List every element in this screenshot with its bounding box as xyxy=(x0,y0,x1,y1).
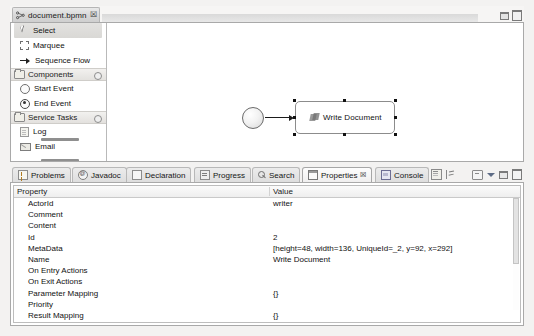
palette-tool-sequence-flow[interactable]: Sequence Flow xyxy=(11,53,106,68)
palette-entry-label: End Event xyxy=(34,99,71,108)
cell-property: Parameter Mapping xyxy=(14,289,270,298)
palette-entry-log[interactable]: Log xyxy=(11,124,106,139)
email-icon xyxy=(20,143,31,151)
chevron-down-icon[interactable] xyxy=(487,173,495,177)
table-row[interactable]: ActorId writer xyxy=(14,198,520,209)
table-header-row: Property Value xyxy=(14,186,520,198)
table-vertical-scrollbar-thumb[interactable] xyxy=(513,198,519,264)
bpmn-diagram-canvas[interactable]: Write Document xyxy=(107,23,523,161)
properties-table[interactable]: Property Value ActorId writer Comment Co… xyxy=(13,185,521,323)
end-event-icon xyxy=(20,99,30,109)
palette-scroll-indicator-components[interactable] xyxy=(41,138,79,141)
sequence-flow-connection[interactable] xyxy=(265,117,291,118)
table-row[interactable]: Parameter Mapping {} xyxy=(14,288,520,299)
table-row[interactable]: On Exit Actions xyxy=(14,276,520,287)
cell-value[interactable]: {} xyxy=(270,311,520,320)
table-row[interactable]: Skippable xyxy=(14,321,520,323)
start-event-icon xyxy=(20,84,30,94)
cell-property: Result Mapping xyxy=(14,311,270,320)
palette-scroll-indicator-service-tasks[interactable] xyxy=(41,159,79,161)
table-row[interactable]: Name Write Document xyxy=(14,254,520,265)
folder-icon xyxy=(14,70,25,79)
cell-value[interactable]: {} xyxy=(270,289,520,298)
palette-tool-select[interactable]: Select xyxy=(14,23,102,38)
palette-entry-start-event[interactable]: Start Event xyxy=(11,81,106,96)
tab-label: Console xyxy=(394,171,423,180)
table-row[interactable]: On Entry Actions xyxy=(14,265,520,276)
collapse-icon[interactable] xyxy=(94,72,102,80)
tab-search[interactable]: Search xyxy=(252,167,300,182)
selection-handle-sw[interactable] xyxy=(293,133,296,136)
properties-view-body: Property Value ActorId writer Comment Co… xyxy=(10,182,524,326)
cell-property: MetaData xyxy=(14,244,270,253)
palette-group-label: Service Tasks xyxy=(28,113,77,122)
cell-property: On Exit Actions xyxy=(14,277,270,286)
search-icon xyxy=(258,171,266,179)
selection-handle-e[interactable] xyxy=(394,116,397,119)
palette-tool-label: Marquee xyxy=(33,41,65,50)
column-header-value[interactable]: Value xyxy=(270,187,520,196)
cell-value[interactable]: Write Document xyxy=(270,255,520,264)
cell-value[interactable]: [height=48, width=136, UniqueId=_2, y=92… xyxy=(270,244,520,253)
start-event-node[interactable] xyxy=(242,107,264,129)
task-node-write-document[interactable]: Write Document xyxy=(295,101,395,134)
view-menu-icon[interactable] xyxy=(472,170,483,180)
editor-body: Select Marquee Sequence Flow Components xyxy=(10,22,524,162)
maximize-icon[interactable] xyxy=(512,10,522,21)
collapse-icon[interactable] xyxy=(94,115,102,123)
editor-tab-row-filler xyxy=(102,14,478,22)
log-document-icon xyxy=(20,127,29,137)
palette-entry-end-event[interactable]: End Event xyxy=(11,96,106,111)
filter-icon[interactable] xyxy=(431,169,442,180)
editor-tab-row: document.bpmn ☒ xyxy=(10,6,524,22)
cell-property: Skippable xyxy=(14,321,270,323)
cell-property: Name xyxy=(14,255,270,264)
bpmn-editor-part: document.bpmn ☒ Select Marquee xyxy=(10,6,524,162)
selection-handle-s[interactable] xyxy=(343,133,346,136)
tab-label: Progress xyxy=(213,171,245,180)
selection-handle-n[interactable] xyxy=(343,99,346,102)
table-row[interactable]: Priority xyxy=(14,299,520,310)
column-header-property[interactable]: Property xyxy=(14,187,270,196)
tab-console[interactable]: Console xyxy=(375,167,429,182)
maximize-icon[interactable] xyxy=(512,169,522,180)
table-vertical-scrollbar[interactable] xyxy=(513,198,519,310)
close-icon[interactable]: ☒ xyxy=(360,171,366,179)
table-row[interactable]: Comment xyxy=(14,209,520,220)
tab-declaration[interactable]: Declaration xyxy=(126,167,191,182)
cell-property: Priority xyxy=(14,300,270,309)
selection-handle-se[interactable] xyxy=(394,133,397,136)
cell-value[interactable]: writer xyxy=(270,199,520,208)
pin-icon[interactable] xyxy=(446,170,456,179)
palette-group-components[interactable]: Components xyxy=(11,68,106,81)
cell-property: On Entry Actions xyxy=(14,266,270,275)
cursor-icon xyxy=(20,26,29,35)
palette-entry-label: Log xyxy=(33,127,46,136)
palette-entry-email[interactable]: Email xyxy=(11,139,106,154)
minimize-icon[interactable] xyxy=(499,171,508,179)
table-row[interactable]: Result Mapping {} xyxy=(14,310,520,321)
tab-label: Properties xyxy=(321,171,357,180)
selection-handle-w[interactable] xyxy=(293,116,296,119)
properties-view-part: Problems Javadoc Declaration Progress Se… xyxy=(10,166,524,326)
palette-tool-marquee[interactable]: Marquee xyxy=(11,38,106,53)
palette-entry-label: Email xyxy=(35,142,55,151)
minimize-icon[interactable] xyxy=(500,12,509,20)
tab-javadoc[interactable]: Javadoc xyxy=(72,167,127,182)
selection-handle-ne[interactable] xyxy=(394,99,397,102)
cell-property: ActorId xyxy=(14,199,270,208)
palette-tool-label: Sequence Flow xyxy=(35,56,90,65)
cell-value[interactable]: 2 xyxy=(270,233,520,242)
close-icon[interactable]: ☒ xyxy=(90,11,97,19)
editor-tab-document-bpmn[interactable]: document.bpmn ☒ xyxy=(12,7,100,22)
table-row[interactable]: Content xyxy=(14,220,520,231)
palette-group-service-tasks[interactable]: Service Tasks xyxy=(11,111,106,124)
tab-problems[interactable]: Problems xyxy=(12,167,71,182)
selection-handle-nw[interactable] xyxy=(293,99,296,102)
properties-icon xyxy=(308,170,318,180)
declaration-icon xyxy=(132,170,142,180)
tab-progress[interactable]: Progress xyxy=(194,167,251,182)
table-row[interactable]: Id 2 xyxy=(14,232,520,243)
tab-properties[interactable]: Properties ☒ xyxy=(302,167,372,182)
table-row[interactable]: MetaData [height=48, width=136, UniqueId… xyxy=(14,243,520,254)
